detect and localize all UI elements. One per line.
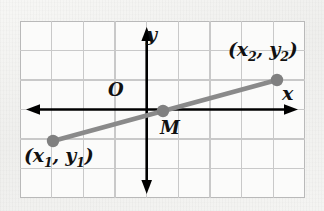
point-2-x: x xyxy=(237,38,248,60)
origin-label: O xyxy=(108,79,123,100)
y-axis-label: y xyxy=(146,23,157,45)
midpoint-diagram: y x O M (x1, y1) (x2, y2) xyxy=(0,0,324,211)
point-2-label: (x2, y2) xyxy=(228,38,297,64)
midpoint-label: M xyxy=(160,117,180,138)
midpoint-dot xyxy=(157,105,169,117)
point-2-y: y xyxy=(269,38,280,60)
point-2-comma: , xyxy=(256,38,269,60)
point-1-y: y xyxy=(65,144,76,166)
point-2-open: ( xyxy=(228,38,237,60)
point-1-open: ( xyxy=(24,144,33,166)
point-2-close: ) xyxy=(289,38,298,60)
x-axis-label: x xyxy=(282,82,293,104)
point-2-y-sub: 2 xyxy=(280,49,289,64)
graph-layer xyxy=(0,0,324,211)
point-1-comma: , xyxy=(52,144,65,166)
point-1-x: x xyxy=(33,144,44,166)
point-1-y-sub: 1 xyxy=(76,155,85,170)
point-1-close: ) xyxy=(85,144,94,166)
point-1-label: (x1, y1) xyxy=(24,144,93,170)
